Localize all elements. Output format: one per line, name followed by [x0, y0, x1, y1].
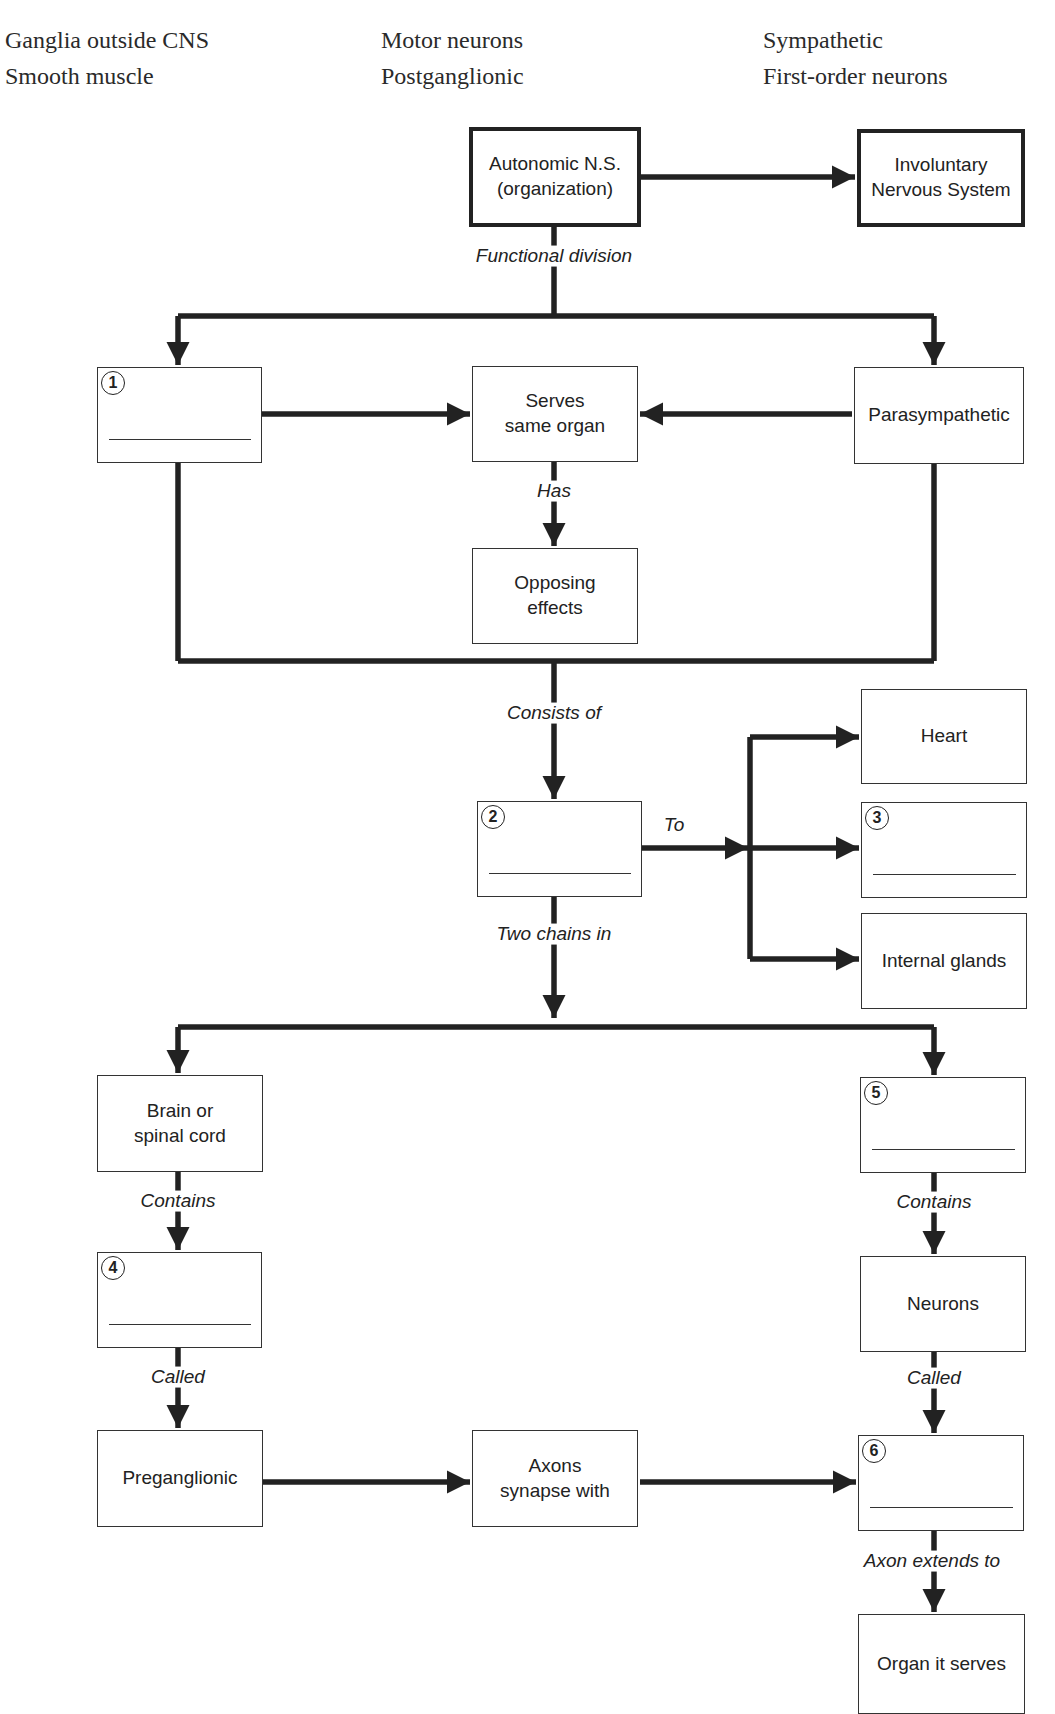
- number-badge: 3: [865, 806, 889, 830]
- node-heart: Heart: [861, 689, 1027, 784]
- node-autonomic-ns: Autonomic N.S. (organization): [469, 127, 641, 227]
- node-opposing-effects: Opposing effects: [472, 548, 638, 644]
- edge-label-consists-of: Consists of: [504, 703, 604, 724]
- edge-label-contains: Contains: [894, 1192, 975, 1213]
- number-badge: 4: [101, 1256, 125, 1280]
- blank-box-6[interactable]: 6: [858, 1435, 1024, 1531]
- node-label: Axons synapse with: [500, 1454, 610, 1503]
- node-preganglionic: Preganglionic: [97, 1430, 263, 1527]
- edge-label-has: Has: [534, 481, 574, 502]
- edge-label-contains: Contains: [138, 1191, 219, 1212]
- answer-line[interactable]: [109, 1324, 251, 1325]
- node-label: Organ it serves: [877, 1652, 1006, 1677]
- node-label: Preganglionic: [122, 1466, 237, 1491]
- number-badge: 1: [101, 371, 125, 395]
- number-badge: 5: [864, 1081, 888, 1105]
- node-label: Heart: [921, 724, 967, 749]
- answer-line[interactable]: [872, 1149, 1015, 1150]
- blank-box-2[interactable]: 2: [477, 801, 642, 897]
- blank-box-3[interactable]: 3: [861, 802, 1027, 898]
- node-involuntary-ns: Involuntary Nervous System: [857, 129, 1025, 227]
- node-internal-glands: Internal glands: [861, 913, 1027, 1009]
- blank-box-4[interactable]: 4: [97, 1252, 262, 1348]
- node-label: Brain or spinal cord: [125, 1099, 235, 1148]
- node-axons-synapse-with: Axons synapse with: [472, 1430, 638, 1527]
- edge-label-called: Called: [904, 1368, 964, 1389]
- node-label: Involuntary Nervous System: [861, 153, 1021, 202]
- edge-label-two-chains-in: Two chains in: [494, 924, 615, 945]
- node-label: Autonomic N.S. (organization): [473, 152, 637, 201]
- node-label: Parasympathetic: [868, 403, 1010, 428]
- number-badge: 6: [862, 1439, 886, 1463]
- node-parasympathetic: Parasympathetic: [854, 367, 1024, 464]
- node-label: Internal glands: [882, 949, 1007, 974]
- edge-label-to: To: [661, 815, 687, 836]
- edge-label-called: Called: [148, 1367, 208, 1388]
- answer-line[interactable]: [109, 439, 251, 440]
- node-serves-same-organ: Serves same organ: [472, 366, 638, 462]
- node-neurons: Neurons: [860, 1256, 1026, 1352]
- node-label: Serves same organ: [500, 389, 610, 438]
- node-brain-spinal-cord: Brain or spinal cord: [97, 1075, 263, 1172]
- node-organ-it-serves: Organ it serves: [858, 1614, 1025, 1714]
- blank-box-5[interactable]: 5: [860, 1077, 1026, 1173]
- blank-box-1[interactable]: 1: [97, 367, 262, 463]
- edge-label-functional-division: Functional division: [473, 246, 635, 267]
- node-label: Opposing effects: [505, 571, 605, 620]
- answer-line[interactable]: [489, 873, 631, 874]
- node-label: Neurons: [907, 1292, 979, 1317]
- answer-line[interactable]: [870, 1507, 1013, 1508]
- number-badge: 2: [481, 805, 505, 829]
- edge-label-axon-extends-to: Axon extends to: [861, 1551, 1003, 1572]
- answer-line[interactable]: [873, 874, 1016, 875]
